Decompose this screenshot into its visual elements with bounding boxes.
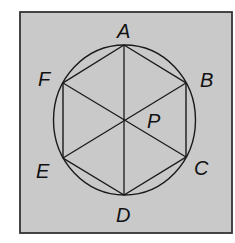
vertex-label-c: C: [194, 157, 209, 179]
center-label-p: P: [147, 110, 161, 132]
vertex-label-d: D: [116, 204, 130, 226]
vertex-label-a: A: [116, 20, 130, 42]
diagram-canvas: A B C D E F P: [0, 0, 235, 243]
vertex-label-b: B: [200, 69, 213, 91]
vertex-label-e: E: [36, 160, 50, 182]
vertex-label-f: F: [38, 68, 52, 90]
hexagon-diagram: A B C D E F P: [0, 0, 235, 243]
